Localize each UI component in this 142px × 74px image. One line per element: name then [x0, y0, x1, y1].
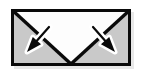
envelope-with-two-arrows-icon: Envelope icon with two arrows pointing o… [0, 0, 142, 74]
envelope-icon-canvas: Envelope icon with two arrows pointing o… [0, 0, 142, 74]
